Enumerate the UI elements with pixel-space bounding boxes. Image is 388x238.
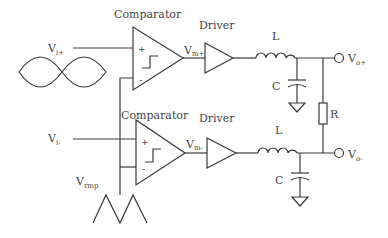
capacitor-top-label: C [272,80,280,93]
terminal-circle-icon [335,54,344,63]
comparator-top-plus: + [138,44,146,54]
vramp-label: Vrmp [75,175,99,190]
ground-icon [289,103,305,112]
triangle-wave-icon [93,195,147,223]
hysteresis-step-icon [142,56,158,68]
driver-top-label: Driver [199,19,235,32]
vm-minus-label: Vm- [185,138,204,152]
vi-plus-label: Vi+ [47,42,64,57]
ramp-bus-top [120,78,133,195]
sine-lobes-icon [19,57,106,87]
driver-bottom [207,138,236,168]
resistor-label: R [330,108,339,121]
hysteresis-step-icon [145,149,161,162]
comparator-top-minus: - [139,75,142,85]
comparator-bottom [136,120,185,185]
driver-bottom-label: Driver [199,112,235,125]
comparator-bottom-label: Comparator [121,109,189,122]
comparator-bottom-plus: + [141,137,149,147]
inductor-bottom-label: L [275,124,283,137]
inductor-bottom [258,148,297,153]
comparator-bottom-minus: - [142,164,145,174]
vo-minus-label: Vo- [347,148,363,163]
terminal-circle-icon [335,149,344,158]
circuit-diagram: Vi+ Comparator + - Vm+ Driver L C Vo+ [0,0,388,238]
vi-minus-label: Vi- [47,132,61,147]
inductor-top [256,53,295,58]
bottom-channel: Vi- Comparator + - Vm- Driver L C Vo- [47,109,363,206]
comparator-top-label: Comparator [114,8,182,21]
vm-plus-label: Vm+ [183,44,205,58]
capacitor-bottom-label: C [275,174,283,187]
load-resistor: R [319,58,339,153]
vo-plus-label: Vo+ [347,52,366,67]
driver-top [205,43,233,73]
ground-icon [292,197,308,206]
inductor-top-label: L [272,30,280,43]
resistor-body [319,103,327,124]
